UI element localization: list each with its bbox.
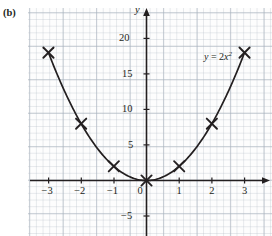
xtick-label--1: −1 [107, 186, 118, 197]
y-axis-arrow [143, 8, 150, 16]
xtick-label-2: 2 [209, 186, 214, 197]
ytick-label-10: 10 [122, 104, 133, 115]
y-axis-label: y [135, 4, 140, 15]
origin-label: 0 [138, 186, 143, 197]
xtick-label--2: −2 [74, 186, 85, 197]
panel-label: (b) [3, 7, 16, 18]
data-point--2-8 [76, 119, 86, 129]
axes [30, 8, 270, 236]
data-point-3-18 [239, 48, 249, 58]
ytick-label--5: −5 [121, 211, 132, 222]
data-point-1-2 [174, 161, 184, 171]
data-point-2-8 [207, 119, 217, 129]
x-axis-arrow [262, 177, 270, 183]
data-point--3-18 [43, 48, 53, 58]
xtick-label-3: 3 [242, 186, 247, 197]
ytick-label-15: 15 [122, 69, 133, 80]
plot-canvas [0, 0, 272, 236]
ytick-label-20: 20 [119, 33, 130, 44]
curve-equation-label: y = 2x2 [204, 50, 232, 62]
xtick-label--3: −3 [42, 186, 53, 197]
curve-equation-exponent: 2 [229, 50, 233, 58]
xtick-label-1: 1 [177, 186, 182, 197]
data-point--1-2 [109, 161, 119, 171]
figure-panel: (b) y y = 2x2 20 15 10 5 −5 −3 −2 −1 0 1… [0, 0, 272, 236]
ytick-label-5: 5 [128, 140, 133, 151]
curve-equation-eq: = 2 [208, 51, 224, 62]
